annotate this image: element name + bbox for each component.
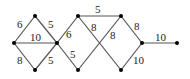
edge-weight-label: 8 [17,54,23,66]
node-A [12,41,16,45]
edge-weight-label: 8 [134,20,140,32]
node-D [55,41,59,45]
node-H [119,68,123,72]
node-E [76,14,80,18]
node-C [33,68,37,72]
edge-C-D [35,43,57,70]
node-F [76,68,80,72]
weighted-graph: 6510856558881010 [0,0,190,79]
edge-weight-label: 8 [110,29,116,41]
node-I [140,41,144,45]
edge-weight-label: 5 [70,48,76,60]
edge-weight-label: 10 [155,31,167,43]
node-J [175,41,179,45]
edge-weight-labels: 6510856558881010 [17,3,167,66]
edge-weight-label: 8 [91,21,97,33]
edge-weight-label: 5 [95,3,101,15]
edge-weight-label: 5 [48,18,54,30]
node-G [119,14,123,18]
edge-weight-label: 10 [30,31,42,43]
node-B [33,14,37,18]
edge-weight-label: 6 [66,28,72,40]
edge-weight-label: 10 [133,54,145,66]
edge-weight-label: 6 [17,18,23,30]
edge-weight-label: 5 [48,54,54,66]
